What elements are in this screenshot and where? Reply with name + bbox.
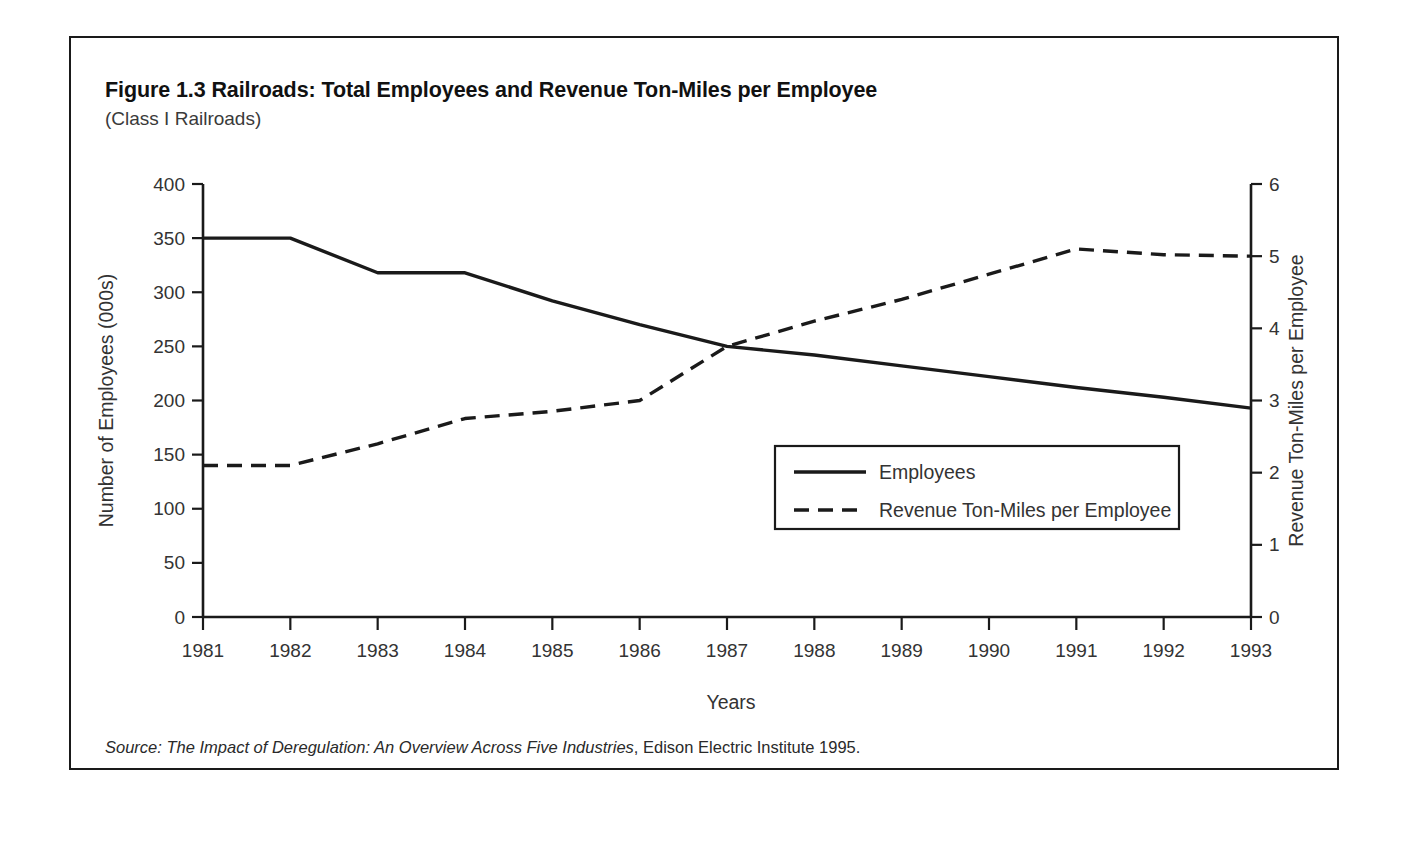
right-axis-tick-label: 4 <box>1269 318 1280 339</box>
left-axis-tick-label: 150 <box>153 444 185 465</box>
source-note: Source: The Impact of Deregulation: An O… <box>105 738 860 757</box>
right-axis-tick-label: 2 <box>1269 462 1280 483</box>
x-axis-tick-label: 1992 <box>1143 640 1185 661</box>
series-line-revenue-ton-miles <box>203 249 1251 466</box>
left-axis-tick-label: 100 <box>153 498 185 519</box>
right-axis-tick-label: 3 <box>1269 390 1280 411</box>
series-line-employees <box>203 238 1251 408</box>
right-axis-tick-label: 0 <box>1269 607 1280 628</box>
left-axis-tick-label: 350 <box>153 228 185 249</box>
x-axis-tick-label: 1982 <box>269 640 311 661</box>
right-axis-tick-label: 5 <box>1269 246 1280 267</box>
left-axis-tick-label: 400 <box>153 174 185 195</box>
right-axis-tick-label: 1 <box>1269 534 1280 555</box>
x-axis-tick-label: 1989 <box>881 640 923 661</box>
left-axis-tick-label: 300 <box>153 282 185 303</box>
x-axis-tick-label: 1985 <box>531 640 573 661</box>
x-axis-tick-label: 1986 <box>619 640 661 661</box>
right-axis-tick-label: 6 <box>1269 174 1280 195</box>
left-axis-tick-label: 200 <box>153 390 185 411</box>
x-axis-title: Years <box>706 691 755 713</box>
x-axis-tick-label: 1987 <box>706 640 748 661</box>
left-axis-tick-label: 250 <box>153 336 185 357</box>
x-axis-tick-label: 1990 <box>968 640 1010 661</box>
y-axis-title-left: Number of Employees (000s) <box>95 274 117 528</box>
figure-frame: Figure 1.3 Railroads: Total Employees an… <box>69 36 1339 770</box>
line-chart: 0501001502002503003504000123456198119821… <box>71 38 1341 772</box>
left-axis-tick-label: 50 <box>164 552 185 573</box>
legend-label-employees: Employees <box>879 461 976 483</box>
x-axis-tick-label: 1981 <box>182 640 224 661</box>
source-title: Source: The Impact of Deregulation: An O… <box>105 738 634 756</box>
x-axis-tick-label: 1988 <box>793 640 835 661</box>
x-axis-tick-label: 1993 <box>1230 640 1272 661</box>
legend-label-revenue-ton-miles: Revenue Ton-Miles per Employee <box>879 499 1171 521</box>
x-axis-tick-label: 1991 <box>1055 640 1097 661</box>
source-publisher: , Edison Electric Institute 1995. <box>634 738 861 756</box>
left-axis-tick-label: 0 <box>174 607 185 628</box>
x-axis-tick-label: 1984 <box>444 640 487 661</box>
x-axis-tick-label: 1983 <box>357 640 399 661</box>
y-axis-title-right: Revenue Ton-Miles per Employee <box>1285 254 1307 546</box>
